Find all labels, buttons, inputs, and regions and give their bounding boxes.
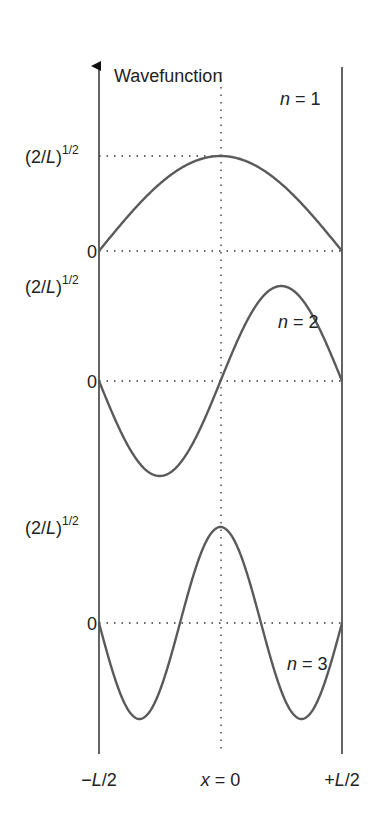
panel-n2: 0(2/L)1/2n = 2 — [25, 273, 342, 476]
panel-n1: 0(2/L)1/2n = 1 — [25, 89, 342, 262]
zero-label: 0 — [87, 372, 97, 392]
amplitude-label: (2/L)1/2 — [25, 143, 79, 167]
x-tick-labels: −L/2x = 0+L/2 — [81, 770, 360, 790]
zero-label: 0 — [87, 242, 97, 262]
amplitude-label: (2/L)1/2 — [25, 273, 79, 297]
wavefunction-diagram: Wavefunction 0(2/L)1/2n = 10(2/L)1/2n = … — [0, 0, 376, 830]
quantum-number-label: n = 1 — [280, 89, 321, 109]
quantum-number-label: n = 3 — [287, 654, 328, 674]
x-tick-label: x = 0 — [200, 770, 241, 790]
panels: 0(2/L)1/2n = 10(2/L)1/2n = 20(2/L)1/2n =… — [25, 89, 342, 719]
y-axis-label: Wavefunction — [114, 66, 222, 86]
zero-label: 0 — [87, 614, 97, 634]
x-tick-label: −L/2 — [81, 770, 117, 790]
panel-n3: 0(2/L)1/2n = 3 — [25, 514, 342, 719]
x-tick-label: +L/2 — [324, 770, 360, 790]
amplitude-label: (2/L)1/2 — [25, 514, 79, 538]
quantum-number-label: n = 2 — [278, 312, 319, 332]
